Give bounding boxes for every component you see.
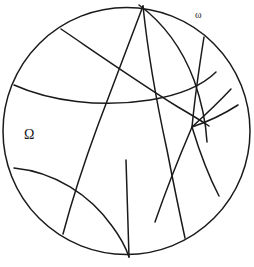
hyperbolic-disk-figure: Ω ω [0,0,254,267]
poincare-disk-canvas [0,0,254,267]
ideal-vertex-label-omega: ω [195,10,202,20]
domain-label-omega-capital: Ω [24,128,34,142]
disk-boundary-circle [3,8,250,255]
